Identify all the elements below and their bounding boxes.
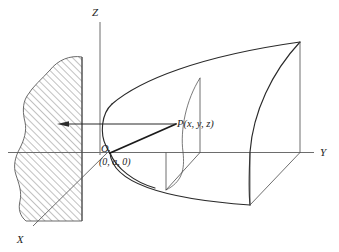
z-axis-label: Z bbox=[92, 6, 99, 18]
origin-to-point-line bbox=[110, 124, 176, 153]
mid-section-receding-ruling bbox=[166, 153, 200, 191]
hatched-region-shape bbox=[15, 57, 82, 221]
surface-bottom-edge bbox=[110, 153, 250, 205]
x-axis-label: X bbox=[16, 233, 25, 245]
y-axis-label: Y bbox=[320, 146, 328, 158]
surface-top-edge bbox=[112, 42, 300, 104]
origin-label: O bbox=[101, 143, 109, 154]
hatched-region-group bbox=[15, 57, 82, 221]
surface-right-cross-section bbox=[249, 42, 300, 205]
coordinate-system-figure: Z Y X O (0, a, 0) P(x, y, z) bbox=[0, 0, 339, 252]
diagram-canvas: Z Y X O (0, a, 0) P(x, y, z) bbox=[0, 0, 339, 252]
surface-mid-cross-section bbox=[166, 78, 200, 190]
right-end-receding-edge bbox=[250, 153, 300, 206]
point-p-label: P(x, y, z) bbox=[176, 118, 214, 130]
origin-coordinates-label: (0, a, 0) bbox=[99, 156, 131, 168]
